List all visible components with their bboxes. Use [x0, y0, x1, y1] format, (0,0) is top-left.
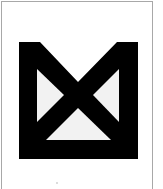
logo-canvas: [0, 0, 163, 189]
scan-artifact: [56, 182, 58, 184]
logo-mark-body: [19, 42, 138, 159]
bowtie-logo-icon: [0, 0, 163, 189]
